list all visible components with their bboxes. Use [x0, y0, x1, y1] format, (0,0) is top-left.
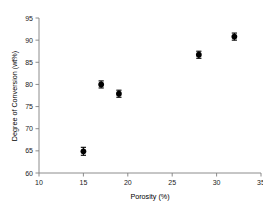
- data-marker: [98, 82, 104, 88]
- data-point: [196, 51, 202, 58]
- y-tick-label: 60: [25, 170, 33, 177]
- x-tick-label: 10: [35, 179, 43, 186]
- data-marker: [231, 34, 237, 40]
- data-point: [116, 90, 122, 97]
- y-tick-label: 70: [25, 125, 33, 132]
- data-marker: [196, 52, 202, 58]
- y-tick-label: 85: [25, 59, 33, 66]
- data-point: [231, 33, 237, 40]
- data-point: [98, 81, 104, 88]
- x-tick-label: 30: [213, 179, 221, 186]
- data-series: [81, 33, 238, 155]
- y-tick-label: 90: [25, 37, 33, 44]
- x-tick-label: 20: [124, 179, 132, 186]
- x-axis-ticks: 101520253035: [35, 173, 263, 186]
- y-tick-label: 75: [25, 103, 33, 110]
- y-tick-label: 65: [25, 147, 33, 154]
- y-axis-ticks: 6065707580859095: [25, 15, 39, 177]
- y-tick-label: 95: [25, 15, 33, 22]
- y-axis-title: Degree of Conversion (wt%): [10, 51, 19, 141]
- data-point: [81, 147, 87, 155]
- x-axis-title: Porosity (%): [130, 192, 169, 201]
- x-tick-label: 35: [257, 179, 263, 186]
- data-marker: [116, 91, 122, 97]
- x-tick-label: 25: [168, 179, 176, 186]
- scatter-plot: 6065707580859095 101520253035 Porosity (…: [0, 0, 263, 206]
- data-marker: [81, 148, 87, 154]
- x-tick-label: 15: [80, 179, 88, 186]
- y-tick-label: 80: [25, 81, 33, 88]
- chart-figure: 6065707580859095 101520253035 Porosity (…: [0, 0, 263, 206]
